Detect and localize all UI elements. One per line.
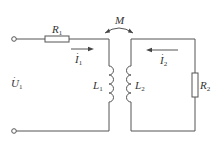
label-r1: R1 bbox=[52, 24, 62, 37]
label-r2: R2 bbox=[200, 80, 210, 93]
label-r1-sub: 1 bbox=[59, 29, 63, 37]
label-i1-sub: 1 bbox=[79, 59, 83, 67]
label-r1-base: R bbox=[52, 23, 59, 35]
label-l1-sub: 1 bbox=[99, 85, 103, 93]
circuit-schematic bbox=[0, 0, 224, 151]
inductor-l2 bbox=[127, 66, 132, 102]
arc-arrowhead-right-icon bbox=[128, 29, 133, 34]
label-i2: ·I2 bbox=[160, 55, 167, 68]
label-l2: L2 bbox=[135, 80, 145, 93]
inductor-l1 bbox=[109, 66, 114, 102]
label-i2-sub: 2 bbox=[164, 60, 168, 68]
label-r2-sub: 2 bbox=[207, 85, 211, 93]
arrowhead-right-icon bbox=[88, 47, 94, 51]
label-u1: ·U1 bbox=[11, 78, 22, 91]
label-l1: L1 bbox=[93, 80, 103, 93]
label-m: M bbox=[115, 15, 124, 26]
label-l2-sub: 2 bbox=[141, 85, 145, 93]
label-u1-dot: · bbox=[13, 73, 16, 82]
label-u1-sub: 1 bbox=[19, 83, 23, 91]
resistor-r2 bbox=[192, 73, 198, 97]
label-i1-dot: · bbox=[76, 49, 79, 58]
label-i2-dot: · bbox=[161, 50, 164, 59]
arrowhead-left-icon bbox=[146, 48, 152, 52]
top-terminal bbox=[12, 37, 17, 42]
arc-arrowhead-left-icon bbox=[105, 29, 110, 34]
bottom-terminal bbox=[12, 129, 17, 134]
circuit-diagram: R1 M ·I1 ·I2 ·U1 L1 L2 R2 bbox=[0, 0, 224, 151]
label-r2-base: R bbox=[200, 79, 207, 91]
label-i1: ·I1 bbox=[75, 54, 82, 67]
